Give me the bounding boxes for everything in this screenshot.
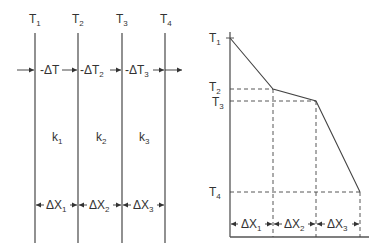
label-k3: k3 <box>139 130 150 146</box>
label-t1: T1 <box>29 12 41 28</box>
profile-label-dx3: ΔX3 <box>327 217 348 233</box>
dashed-guides <box>230 89 360 237</box>
label-k2: k2 <box>96 130 107 146</box>
label-delta-t2: -ΔT2 <box>80 63 104 79</box>
delta-t-row: -ΔT -ΔT2 -ΔT3 <box>17 63 182 79</box>
label-dx1: ΔX1 <box>46 198 67 214</box>
label-delta-t3: -ΔT3 <box>125 63 149 79</box>
composite-wall-diagram: T1 T2 T3 T4 -ΔT -ΔT2 -ΔT3 k1 k2 k3 ΔX1 <box>17 12 182 243</box>
temperature-profile-line <box>230 38 360 192</box>
label-dx3: ΔX3 <box>133 198 154 214</box>
axis-label-t1: T1 <box>209 31 221 47</box>
profile-label-dx1: ΔX1 <box>241 217 262 233</box>
heat-conduction-diagram: T1 T2 T3 T4 -ΔT -ΔT2 -ΔT3 k1 k2 k3 ΔX1 <box>0 0 381 252</box>
axis-label-t2: T2 <box>209 80 221 96</box>
label-t3: T3 <box>116 12 128 28</box>
label-dx2: ΔX2 <box>89 198 110 214</box>
label-delta-t1: -ΔT <box>40 63 60 77</box>
temperature-profile-diagram: T1 T2 T3 T4 ΔX1 ΔX2 ΔX3 <box>209 31 369 237</box>
label-t2: T2 <box>72 12 84 28</box>
axis-label-t4: T4 <box>209 185 221 201</box>
profile-label-dx2: ΔX2 <box>284 217 305 233</box>
label-k1: k1 <box>52 130 63 146</box>
axis-label-t3: T3 <box>212 95 224 111</box>
thickness-dimensions-right: ΔX1 ΔX2 ΔX3 <box>231 217 359 233</box>
label-t4: T4 <box>160 12 172 28</box>
thickness-dimensions-left: ΔX1 ΔX2 ΔX3 <box>36 198 164 214</box>
